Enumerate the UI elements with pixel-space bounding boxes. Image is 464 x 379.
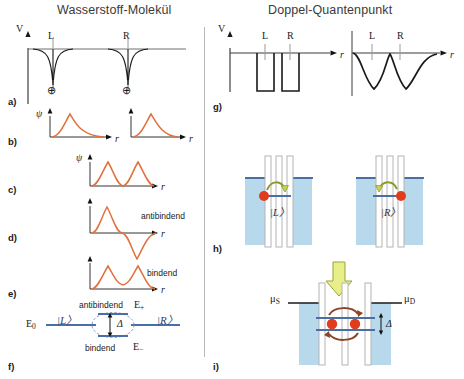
physics-figure: Wasserstoff-Molekül Doppel-Quantenpunkt …	[0, 0, 464, 379]
panel-i-mu-drain: μD	[404, 293, 415, 306]
panel-label-i: i)	[213, 361, 219, 372]
panel-i-mu-drain-subscript: D	[410, 297, 415, 306]
panel-i-mu-source: μS	[270, 293, 280, 306]
panel-i-splitting-label: Δ	[386, 318, 392, 329]
panel-i-graphic	[0, 0, 464, 379]
panel-i-mu-source-subscript: S	[276, 297, 280, 306]
